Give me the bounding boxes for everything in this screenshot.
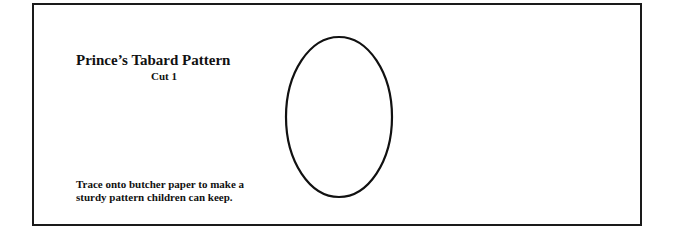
instructions-line-1: Trace onto butcher paper to make a — [76, 178, 296, 191]
tracing-instructions: Trace onto butcher paper to make a sturd… — [76, 178, 296, 204]
instructions-line-2: sturdy pattern children can keep. — [76, 191, 296, 204]
